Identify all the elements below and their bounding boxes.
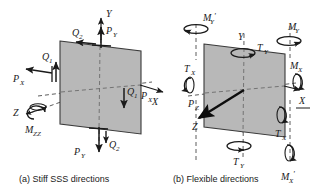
svg-text:P: P xyxy=(140,90,147,101)
svg-text:P: P xyxy=(73,146,80,157)
axis-z-label: Z xyxy=(192,121,198,132)
svg-text:X: X xyxy=(147,96,153,104)
moment-mzz-label: M ZZ xyxy=(24,124,41,138)
axis-x-label: X xyxy=(298,95,306,106)
svg-text:X: X xyxy=(281,134,287,142)
moment-mx-right-symbol xyxy=(293,74,302,90)
svg-text:P: P xyxy=(105,25,112,36)
moment-mzz-symbol xyxy=(27,104,46,119)
svg-text:ZZ: ZZ xyxy=(33,130,41,138)
figure-root: Y X Z P Y Q 2 Q 1 P X xyxy=(0,0,315,196)
load-px-right-label: P X xyxy=(140,90,153,104)
svg-text:T: T xyxy=(184,63,191,74)
load-q2-bottom-label: Q 2 xyxy=(109,139,120,153)
svg-text:Y: Y xyxy=(295,27,300,35)
load-px-left-label: P X xyxy=(12,73,25,87)
svg-text:P: P xyxy=(187,98,194,109)
torque-ty-bottom-symbol xyxy=(227,142,251,151)
panel-a: Y X Z P Y Q 2 Q 1 P X xyxy=(12,8,163,184)
svg-text:Y: Y xyxy=(113,31,118,39)
torque-tx-left-label: T X xyxy=(184,63,196,77)
svg-text:T: T xyxy=(233,156,240,167)
load-px-left-arrow xyxy=(26,69,52,73)
svg-text:2: 2 xyxy=(116,145,120,153)
load-q2-top-label: Q 2 xyxy=(72,27,83,41)
svg-text:P: P xyxy=(12,73,19,84)
load-py-top-label: P Y xyxy=(105,25,118,39)
svg-text:1: 1 xyxy=(49,57,53,65)
svg-text:2: 2 xyxy=(79,33,83,41)
panel-b: Y X P Z Z M Y ' M Y xyxy=(173,12,310,185)
svg-text:Y: Y xyxy=(240,162,245,170)
svg-text:': ' xyxy=(214,12,216,21)
svg-text:Z: Z xyxy=(195,104,199,112)
load-q1-left-label: Q 1 xyxy=(42,51,53,65)
svg-text:X: X xyxy=(19,79,25,87)
torque-tx-left-symbol xyxy=(184,77,194,93)
mechanics-diagram: Y X Z P Y Q 2 Q 1 P X xyxy=(0,0,315,196)
moment-my-prime-topleft-label: M Y ' xyxy=(202,12,216,26)
axis-y-label: Y xyxy=(106,8,113,19)
axis-z-label: Z xyxy=(13,107,19,118)
moment-mx-right-label: M X xyxy=(289,60,303,74)
load-pz-label: P Z xyxy=(187,98,199,112)
svg-text:X: X xyxy=(190,69,196,77)
load-py-bottom-label: P Y xyxy=(73,146,86,160)
torque-ty-bottom-label: T Y xyxy=(233,156,245,170)
svg-text:X: X xyxy=(297,66,303,74)
svg-text:1: 1 xyxy=(134,92,138,100)
svg-text:Y: Y xyxy=(81,152,86,160)
panel-a-caption: (a) Stiff SSS directions xyxy=(19,174,110,184)
load-py-bottom-tick xyxy=(89,128,108,129)
moment-mx-prime-bottom-label: M X ' xyxy=(280,170,295,185)
panel-b-caption: (b) Flexible directions xyxy=(173,174,259,184)
load-py-top-tick xyxy=(92,45,111,46)
moment-my-topright-label: M Y xyxy=(287,21,300,35)
svg-text:': ' xyxy=(293,170,295,179)
moment-my-topright-symbol xyxy=(277,37,301,46)
